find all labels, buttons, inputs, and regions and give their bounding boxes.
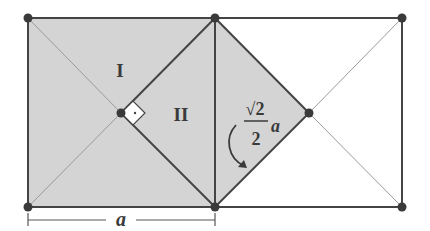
fraction-denominator: 2 [252, 129, 261, 149]
region-label-1: I [116, 60, 123, 81]
geometry-diagram: I II √2 2 a a [0, 0, 430, 231]
fraction-numerator: √2 [246, 99, 265, 119]
right-angle-dot [134, 112, 136, 114]
side-length-label: a [116, 208, 126, 230]
fraction-variable: a [271, 116, 280, 136]
region-label-2: II [174, 104, 189, 125]
